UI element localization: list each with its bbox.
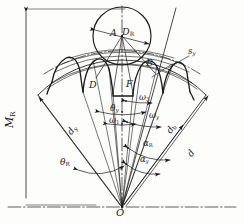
- label-point-f: F: [126, 79, 133, 89]
- label-alpha-r: αR: [143, 139, 153, 148]
- label-pin-diameter: DR: [122, 27, 134, 38]
- label-omega-1: ω1: [109, 116, 119, 125]
- label-arc-thickness-sy: sy: [188, 47, 195, 56]
- label-omega-y: ωy: [149, 111, 159, 120]
- label-mr: MR: [4, 112, 16, 128]
- label-point-d: D: [89, 80, 97, 90]
- label-theta-y: θy: [110, 104, 119, 114]
- label-theta-r: θR: [60, 158, 70, 168]
- label-point-a: A: [110, 28, 117, 38]
- label-omega-3: ω3: [139, 93, 149, 102]
- label-point-b: B: [146, 58, 153, 68]
- label-apex-o: O: [116, 208, 124, 218]
- label-alpha-y: αy: [140, 155, 149, 164]
- gear-measurement-diagram: MR A DR B sy D F ω3 θy ωy ω1 dy db d αR …: [0, 0, 244, 224]
